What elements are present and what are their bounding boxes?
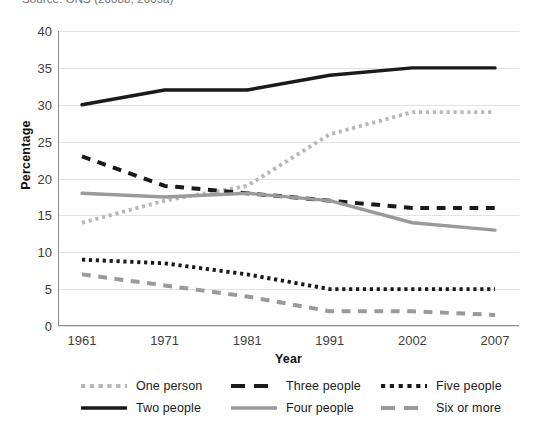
- x-axis-tick-label: 1971: [130, 333, 200, 348]
- y-axis-tick-label: 35: [2, 60, 52, 75]
- legend-label: Four people: [286, 401, 354, 415]
- gridline: [58, 252, 519, 253]
- gridline: [58, 142, 519, 143]
- y-axis-tick-label: 0: [2, 319, 52, 334]
- y-axis-tick-label: 5: [2, 282, 52, 297]
- legend-label: Five people: [436, 379, 502, 393]
- x-axis-line: [58, 325, 519, 326]
- legend-label: One person: [136, 379, 202, 393]
- legend-label: Two people: [136, 401, 201, 415]
- legend-item[interactable]: Three people: [230, 377, 361, 395]
- x-axis-title: Year: [58, 352, 519, 366]
- y-axis-tick-label: 10: [2, 245, 52, 260]
- gridline: [58, 105, 519, 106]
- x-axis-tick-label: 1981: [212, 333, 282, 348]
- x-axis-tick-label: 2002: [377, 333, 447, 348]
- legend-item[interactable]: Six or more: [380, 399, 501, 417]
- gridline: [58, 68, 519, 69]
- legend-item[interactable]: Two people: [80, 399, 201, 417]
- legend-item[interactable]: One person: [80, 377, 202, 395]
- gridline: [58, 179, 519, 180]
- legend-item[interactable]: Four people: [230, 399, 354, 417]
- legend-swatch-icon: [380, 399, 428, 417]
- plot-area: [58, 31, 519, 326]
- y-axis-title: Percentage: [19, 95, 33, 215]
- legend-swatch-icon: [230, 377, 278, 395]
- chart-page: Source: ONS (2008b, 2009a) 0510152025303…: [0, 0, 537, 428]
- legend-swatch-icon: [80, 377, 128, 395]
- chart-legend: One personTwo peopleThree peopleFour peo…: [58, 377, 519, 419]
- x-axis-tick-label: 2007: [460, 333, 530, 348]
- legend-label: Six or more: [436, 401, 501, 415]
- x-axis-tick-label: 1961: [47, 333, 117, 348]
- legend-swatch-icon: [380, 377, 428, 395]
- legend-label: Three people: [286, 379, 361, 393]
- legend-item[interactable]: Five people: [380, 377, 502, 395]
- x-axis-tick-label: 1991: [295, 333, 365, 348]
- legend-swatch-icon: [80, 399, 128, 417]
- y-axis-tick-label: 40: [2, 24, 52, 39]
- gridline: [58, 215, 519, 216]
- gridline: [58, 289, 519, 290]
- y-axis-line: [58, 31, 59, 326]
- gridline: [58, 31, 519, 32]
- legend-swatch-icon: [230, 399, 278, 417]
